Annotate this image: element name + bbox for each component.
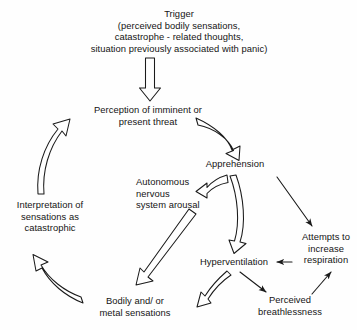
arrow-hyperventilation-to-breathlessness xyxy=(240,272,266,292)
arrow-hyperventilation-to-bodily xyxy=(197,271,231,307)
arrow-bodily-to-interpretation xyxy=(33,255,83,304)
node-interpretation-of-sensations: Interpretation of sensations as catastro… xyxy=(4,199,96,234)
node-hyperventilation: Hyperventilation xyxy=(194,256,274,268)
panic-cycle-diagram: Trigger (perceived bodily sensations, ca… xyxy=(0,0,357,330)
arrow-autonomous-to-bodily xyxy=(136,209,196,285)
arrow-interpretation-to-perception xyxy=(38,119,70,194)
node-bodily-sensations: Bodily and/ or metal sensations xyxy=(92,295,178,318)
node-perception: Perception of imminent or present threat xyxy=(74,104,222,127)
node-apprehension: Apprehension xyxy=(196,158,274,170)
arrow-apprehension-to-hyperventilation xyxy=(229,175,246,254)
node-autonomous-nervous-system-arousal: Autonomous nervous system arousal xyxy=(136,176,212,211)
node-perceived-breathlessness: Perceived breathlessness xyxy=(258,294,322,317)
arrow-breathlessness-to-attempts xyxy=(312,272,331,294)
arrow-trigger-to-perception xyxy=(140,58,161,101)
node-attempts-to-increase-respiration: Attempts to increase respiration xyxy=(296,231,356,266)
node-trigger: Trigger (perceived bodily sensations, ca… xyxy=(54,8,304,54)
arrow-apprehension-to-attempts xyxy=(277,177,312,226)
